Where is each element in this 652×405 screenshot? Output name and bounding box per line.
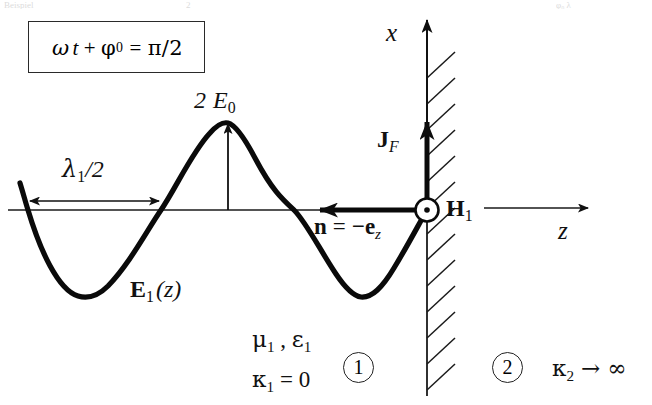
magnetic-field-subscript: 1	[465, 207, 473, 224]
amplitude-label: 2E0	[194, 88, 236, 116]
surface-current-symbol: J	[377, 126, 389, 152]
region-two-number: 2	[503, 356, 513, 379]
pi-over-two: π/2	[148, 36, 183, 60]
time-symbol: t	[72, 36, 78, 61]
normal-vector-label: n=−ez	[314, 215, 381, 241]
region-one-badge: 1	[343, 352, 374, 383]
plus-sign: +	[84, 36, 96, 61]
phase-condition-text: ω t + φ0 = π/2	[29, 22, 206, 74]
kappa-two-subscript: 2	[566, 367, 574, 384]
phase-condition-box: ω t + φ0 = π/2	[28, 21, 205, 73]
magnetic-field-out-of-page-symbol	[416, 199, 439, 222]
physics-figure: Beispiel 2 φ₀ λ	[0, 0, 652, 405]
z-axis-label: z	[558, 218, 568, 243]
lambda-half-suffix: /2	[85, 156, 104, 182]
epsilon-symbol: ε	[292, 326, 304, 352]
epsilon-subscript: 1	[304, 338, 312, 355]
surface-current-subscript: F	[389, 138, 399, 155]
lambda-subscript: 1	[77, 168, 85, 185]
phi-symbol: φ	[101, 36, 116, 60]
field-symbol: E	[130, 276, 146, 302]
phi-subscript: 0	[116, 40, 123, 56]
normal-equals-sign: =	[333, 214, 346, 239]
minus-unit-vector: −e	[352, 214, 375, 239]
medium-two-conductivity: κ2→ ∞	[552, 357, 627, 383]
half-wavelength-label: λ1/2	[62, 157, 104, 185]
amplitude-subscript: 0	[228, 99, 236, 116]
equals-sign: =	[129, 36, 141, 61]
field-label: E1(z)	[130, 277, 181, 305]
kappa-two-symbol: κ	[552, 355, 566, 381]
mu-subscript: 1	[267, 338, 275, 355]
region-two-badge: 2	[492, 352, 523, 383]
mu-symbol: μ	[252, 326, 267, 352]
region-one-number: 1	[354, 356, 364, 379]
h-field-dot	[424, 207, 430, 213]
normal-vector-symbol: n	[314, 214, 327, 239]
amplitude-prefix: 2	[194, 87, 206, 113]
magnetic-field-label: H1	[446, 196, 473, 224]
surface-current-label: JF	[377, 127, 399, 155]
omega-symbol: ω	[52, 36, 70, 60]
kappa-two-limit: → ∞	[581, 355, 627, 381]
field-subscript: 1	[146, 288, 154, 305]
kappa-one-symbol: κ	[252, 366, 266, 392]
magnetic-field-symbol: H	[446, 195, 465, 221]
lambda-symbol: λ	[62, 155, 77, 183]
medium-one-parameters: μ1 , ε1	[252, 328, 311, 354]
medium-one-conductivity: κ1= 0	[252, 368, 310, 394]
amplitude-symbol: E	[213, 87, 228, 113]
normal-vector-subscript: z	[375, 225, 381, 242]
x-axis-label: x	[386, 20, 397, 45]
kappa-one-subscript: 1	[266, 378, 274, 395]
field-argument: (z)	[156, 276, 181, 302]
kappa-one-value: = 0	[280, 367, 310, 392]
parameter-comma: ,	[275, 327, 292, 352]
